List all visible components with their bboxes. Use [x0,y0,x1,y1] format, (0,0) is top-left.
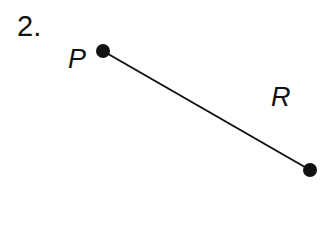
point-p-dot [96,44,110,58]
segment-line [103,51,310,170]
endpoint-dot [303,163,317,177]
line-segment-diagram [0,0,329,241]
